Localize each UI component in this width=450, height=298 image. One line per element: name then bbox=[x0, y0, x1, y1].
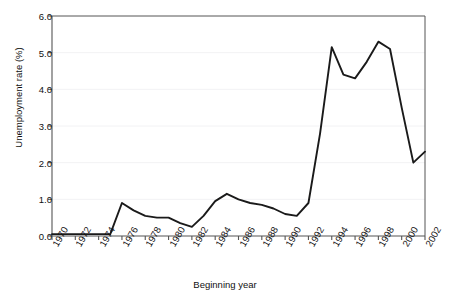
y-tick-label: 3.0 bbox=[22, 121, 52, 132]
x-axis-label: Beginning year bbox=[0, 279, 450, 290]
y-tick-label: 5.0 bbox=[22, 47, 52, 58]
y-tick-label: 6.0 bbox=[22, 11, 52, 22]
chart-figure: · · · · · Unemployment rate (%) Beginnin… bbox=[0, 0, 450, 298]
y-tick-label: 2.0 bbox=[22, 157, 52, 168]
clipped-header-text: · · · · · bbox=[0, 0, 450, 5]
y-tick-label: 0.0 bbox=[22, 231, 52, 242]
y-tick-label: 1.0 bbox=[22, 194, 52, 205]
y-axis-tick-labels: 0.01.02.03.04.05.06.0 bbox=[18, 0, 52, 298]
y-tick-label: 4.0 bbox=[22, 84, 52, 95]
line-chart-plot bbox=[0, 0, 450, 298]
